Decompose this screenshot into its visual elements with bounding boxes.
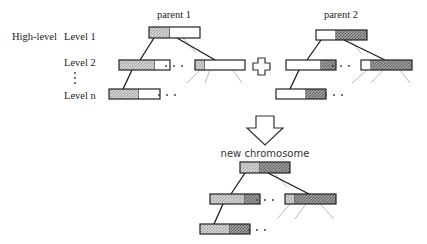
level-labels: High-level Level 1 Level 2 Level n: [12, 31, 97, 101]
gene-segment-dark: [321, 60, 336, 70]
horizontal-ellipsis-icon: [158, 94, 176, 96]
new-chromosome-root-gene-box: [240, 162, 290, 173]
gene-segment-white: [316, 30, 336, 40]
parent-2-level-2-left-gene-box: [286, 60, 336, 70]
level-n-label: Level n: [64, 90, 97, 101]
tree-edge: [290, 70, 299, 89]
new-chromosome-tree: [200, 162, 336, 234]
subtree-edge: [352, 70, 367, 83]
plus-icon: [253, 58, 270, 75]
gene-segment-light: [210, 194, 245, 204]
gene-segment-light: [119, 60, 155, 70]
high-level-label: High-level: [12, 31, 57, 42]
gene-segment-dark: [371, 60, 412, 70]
parent-2-level-2-right-gene-box: [361, 60, 412, 70]
parent-1-tree: [109, 27, 245, 99]
down-arrow-icon: [247, 116, 283, 145]
tree-edge: [177, 38, 215, 60]
level-2-label: Level 2: [64, 57, 96, 68]
subtree-edge: [295, 204, 306, 219]
tree-edge: [140, 38, 154, 60]
gene-segment-light: [149, 27, 170, 38]
subtree-edge: [205, 70, 210, 83]
gene-segment-dark: [336, 30, 367, 40]
parent-1-level-2-right-gene-box: [195, 60, 245, 70]
new-chromosome-level-n-gene-box: [200, 224, 250, 234]
crossover-diagram: High-level Level 1 Level 2 Level n paren…: [0, 0, 427, 244]
gene-segment-white: [155, 60, 170, 70]
parent-2-level-n-gene-box: [276, 89, 326, 99]
new-chromosome-level-2-right-gene-box: [285, 194, 336, 204]
parent-1-title: parent 1: [157, 9, 191, 20]
gene-segment-white: [170, 27, 200, 38]
subtree-edge: [233, 70, 242, 83]
vertical-ellipsis-icon: [74, 72, 76, 84]
gene-segment-dark: [260, 162, 290, 173]
parent-2-title: parent 2: [324, 9, 358, 20]
parent-1-level-2-left-gene-box: [119, 60, 170, 70]
gene-segment-light: [195, 60, 205, 70]
gene-segment-white: [139, 89, 160, 99]
tree-edge: [123, 70, 132, 89]
horizontal-ellipsis-icon: [248, 229, 266, 231]
gene-segment-light: [240, 162, 260, 173]
gene-segment-light: [109, 89, 139, 99]
tree-edge: [268, 173, 309, 194]
gene-segment-dark: [245, 194, 260, 204]
subtree-edge: [187, 70, 200, 83]
new-chromosome-level-2-left-gene-box: [210, 194, 260, 204]
parent-2-root-gene-box: [316, 30, 367, 40]
subtree-edge: [320, 204, 334, 219]
subtree-edge: [350, 40, 361, 53]
gene-segment-white: [276, 89, 306, 99]
horizontal-ellipsis-icon: [325, 94, 343, 96]
parent-1-root-gene-box: [149, 27, 200, 38]
tree-edge: [231, 173, 245, 194]
gene-segment-white: [361, 60, 371, 70]
gene-segment-white: [205, 60, 245, 70]
tree-edge: [344, 40, 385, 60]
subtree-edge: [371, 70, 383, 83]
subtree-edge: [400, 70, 410, 83]
tree-edge: [307, 40, 321, 60]
new-chromosome-title: new chromosome: [221, 148, 310, 159]
subtree-edge: [277, 204, 290, 219]
gene-segment-dark: [295, 194, 336, 204]
level-1-label: Level 1: [64, 31, 96, 42]
gene-segment-dark: [306, 89, 326, 99]
gene-segment-light: [200, 224, 230, 234]
gene-segment-light: [285, 194, 295, 204]
parent-1-level-n-gene-box: [109, 89, 160, 99]
parent-2-tree: [276, 30, 412, 99]
gene-segment-dark: [230, 224, 250, 234]
tree-edge: [214, 204, 223, 224]
gene-segment-white: [286, 60, 321, 70]
